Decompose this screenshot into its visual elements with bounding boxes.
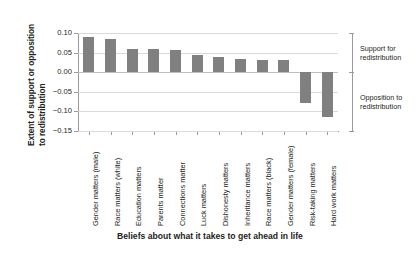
x-tick-mark xyxy=(262,132,263,135)
x-axis-title: Beliefs about what it takes to get ahead… xyxy=(0,231,420,241)
bar xyxy=(83,37,94,72)
annotation-bracket-cap xyxy=(349,72,354,73)
gridline xyxy=(78,92,338,93)
x-category-label: Hard work matters xyxy=(330,166,338,226)
x-category-label: Gender matters (male) xyxy=(92,152,100,226)
bar xyxy=(213,57,224,72)
bar xyxy=(148,49,159,72)
x-category-label: Luck matters xyxy=(200,184,208,226)
annotation-line: Opposition to xyxy=(360,93,402,102)
y-tick-mark xyxy=(74,131,78,132)
x-tick-mark xyxy=(132,132,133,135)
x-category-label: Connections matter xyxy=(179,162,187,226)
bar xyxy=(235,59,246,72)
x-tick-mark xyxy=(327,132,328,135)
y-tick-mark xyxy=(74,72,78,73)
y-tick-mark xyxy=(74,33,78,34)
annotation-bracket-cap xyxy=(349,33,354,34)
y-tick-label: 0.10 xyxy=(46,29,72,37)
gridline xyxy=(78,111,338,112)
x-category-label: Risk-taking matters xyxy=(309,163,317,226)
y-axis-title-line-1: Extent of support or opposition xyxy=(26,24,36,146)
annotation-opposition: Opposition toredistribution xyxy=(360,93,402,111)
y-tick-label: −0.15 xyxy=(46,127,72,135)
x-category-label: Race matters (black) xyxy=(265,158,273,226)
x-tick-mark xyxy=(306,132,307,135)
bar xyxy=(105,39,116,72)
x-category-label: Dishonesty matters xyxy=(222,163,230,226)
y-tick-label: 0.00 xyxy=(46,68,72,76)
plot-area xyxy=(78,33,338,131)
y-tick-label: −0.10 xyxy=(46,107,72,115)
bar xyxy=(322,72,333,117)
x-tick-mark xyxy=(241,132,242,135)
x-category-label: Education matters xyxy=(135,166,143,226)
annotation-bracket-cap xyxy=(349,131,354,132)
y-axis-title: Extent of support or opposition to redis… xyxy=(14,0,48,150)
y-tick-label: 0.05 xyxy=(46,49,72,57)
bar xyxy=(127,49,138,73)
annotation-bracket-opposition xyxy=(352,72,353,131)
x-category-label: Gender matters (female) xyxy=(287,145,295,226)
annotation-support: Support forredistribution xyxy=(360,44,401,62)
x-tick-mark xyxy=(154,132,155,135)
x-tick-mark xyxy=(197,132,198,135)
gridline xyxy=(78,131,338,132)
gridline xyxy=(78,53,338,54)
annotation-line: redistribution xyxy=(360,102,402,111)
x-tick-mark xyxy=(219,132,220,135)
y-tick-label: −0.05 xyxy=(46,88,72,96)
bar xyxy=(257,60,268,73)
x-tick-mark xyxy=(176,132,177,135)
y-tick-mark xyxy=(74,92,78,93)
bar xyxy=(278,60,289,72)
zero-line xyxy=(78,72,338,73)
y-tick-mark xyxy=(74,111,78,112)
bar xyxy=(192,55,203,72)
bar xyxy=(300,72,311,103)
bar-chart-figure: Extent of support or opposition to redis… xyxy=(0,0,420,262)
bar xyxy=(170,50,181,72)
x-category-label: Inheritance matters xyxy=(244,163,252,226)
x-tick-mark xyxy=(111,132,112,135)
annotation-line: redistribution xyxy=(360,53,401,62)
x-category-label: Parents matter xyxy=(157,178,165,226)
x-tick-mark xyxy=(89,132,90,135)
y-tick-mark xyxy=(74,53,78,54)
gridline xyxy=(78,33,338,34)
x-category-label: Race matters (white) xyxy=(114,158,122,226)
x-tick-mark xyxy=(284,132,285,135)
annotation-line: Support for xyxy=(360,44,401,53)
annotation-bracket-support xyxy=(352,33,353,72)
